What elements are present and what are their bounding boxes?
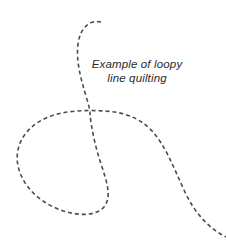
caption: Example of loopy line quilting bbox=[78, 57, 196, 85]
quilting-line-drawing bbox=[0, 0, 226, 242]
caption-line-2: line quilting bbox=[78, 71, 196, 85]
caption-line-1: Example of loopy bbox=[78, 57, 196, 71]
quilting-diagram: Example of loopy line quilting bbox=[0, 0, 226, 242]
